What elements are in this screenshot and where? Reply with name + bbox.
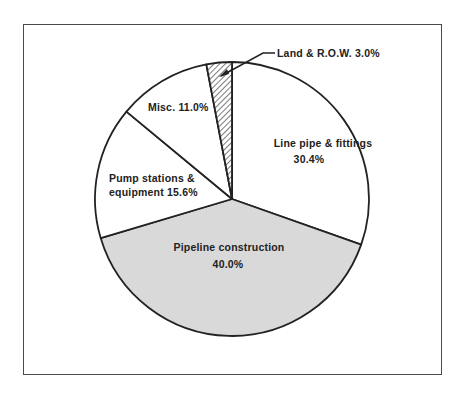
label-misc: Misc. 11.0% — [148, 101, 209, 113]
label-line-pipe-value: 30.4% — [294, 153, 325, 165]
pie-slices — [95, 62, 369, 336]
label-land: Land & R.O.W. 3.0% — [277, 47, 380, 59]
pie-chart: Land & R.O.W. 3.0% Line pipe & fittings … — [0, 0, 464, 394]
label-pump-name: Pump stations & — [109, 172, 195, 184]
label-pipeline-name: Pipeline construction — [174, 241, 285, 253]
label-pump-value: equipment 15.6% — [109, 186, 198, 198]
label-pipeline-value: 40.0% — [213, 258, 244, 270]
label-line-pipe-name: Line pipe & fittings — [274, 137, 373, 149]
